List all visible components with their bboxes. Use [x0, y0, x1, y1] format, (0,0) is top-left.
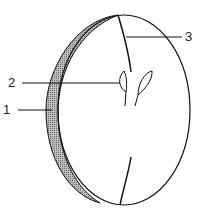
- seed-diagram: [0, 0, 204, 218]
- label-1: 1: [3, 103, 10, 116]
- label-2: 2: [8, 76, 15, 89]
- groove-top: [118, 15, 131, 72]
- embryo-leaf-right: [135, 71, 152, 106]
- embryo-leaf-left: [120, 71, 127, 106]
- groove-bottom: [120, 157, 131, 205]
- label-3: 3: [185, 30, 192, 43]
- seed-coat-shading: [46, 15, 118, 203]
